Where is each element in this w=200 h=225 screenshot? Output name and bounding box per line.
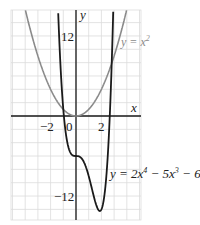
x-tick-neg2: −2 (40, 119, 54, 134)
quartic-label: y = 2x4 − 5x3 − 6 (108, 166, 200, 181)
function-graph: x y −2 0 2 12 −12 y = x2 y = 2x4 − 5x3 −… (0, 0, 200, 225)
x-tick-2: 2 (98, 119, 105, 134)
x-axis-label: x (130, 100, 137, 115)
y-tick-12: 12 (61, 29, 74, 44)
x-tick-0: 0 (66, 119, 73, 134)
parabola-label: y = x2 (120, 34, 150, 49)
y-axis-label: y (78, 7, 86, 22)
y-tick-neg12: −12 (54, 189, 74, 204)
